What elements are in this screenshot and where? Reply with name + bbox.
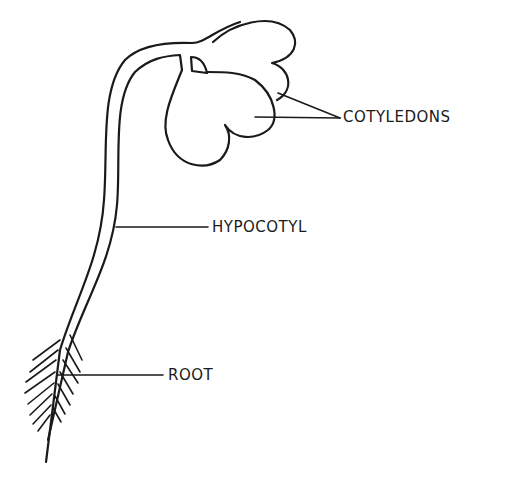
seedling-diagram [0, 0, 507, 489]
cotyledons-leader-lower [255, 117, 340, 118]
root-label: ROOT [168, 368, 213, 383]
cotyledon-petiole [191, 57, 207, 73]
hypocotyl-inner-edge [48, 55, 182, 440]
cotyledons-label: COTYLEDONS [343, 110, 451, 125]
hypocotyl-outer-edge [46, 22, 240, 462]
hypocotyl-label: HYPOCOTYL [212, 220, 307, 235]
cotyledons-leader-upper [278, 93, 340, 118]
cotyledon-back [213, 21, 295, 100]
